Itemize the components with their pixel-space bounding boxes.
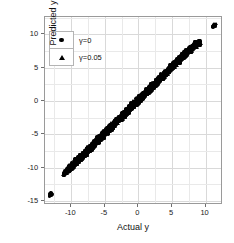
x-tick [137,204,138,207]
y-tick-label: 10 [0,29,38,38]
gridline-v-major [206,17,207,203]
gridline-v-minor [88,17,89,203]
y-tick-label: -10 [0,162,38,171]
gridline-h-major [45,201,221,202]
legend-label-gamma-005: γ=0.05 [79,53,102,62]
gridline-h-major [45,134,221,135]
x-tick-label: 10 [200,208,208,217]
plot-area: γ=0 γ=0.05 [44,16,222,204]
gridline-v-major [172,17,173,203]
data-point [50,191,54,194]
y-tick [41,33,44,34]
y-tick-label: -5 [0,129,38,138]
x-tick-label: 5 [169,208,173,217]
gridline-h-minor [45,84,221,85]
data-point [196,42,200,45]
y-tick [41,133,44,134]
gridline-v-major [105,17,106,203]
gridline-h-minor [45,118,221,119]
x-tick [205,204,206,207]
scatter-plot-figure: γ=0 γ=0.05 -10-505101050-5-10-15 Actual … [0,0,234,243]
y-tick-label: 0 [0,96,38,105]
x-tick-label: -10 [65,208,76,217]
x-tick-label: 0 [135,208,139,217]
y-tick [41,200,44,201]
x-tick [171,204,172,207]
y-tick [41,67,44,68]
y-tick [41,100,44,101]
gridline-h-minor [45,184,221,185]
y-tick [41,167,44,168]
data-point [213,23,217,26]
y-axis-title: Predicted y [46,0,60,117]
x-tick-label: -5 [101,208,107,217]
gridline-h-minor [45,151,221,152]
y-tick-label: -15 [0,196,38,205]
gridline-v-minor [155,17,156,203]
y-tick-label: 5 [0,62,38,71]
x-axis-title: Actual y [44,222,222,232]
gridline-h-minor [45,18,221,19]
legend-label-gamma-0: γ=0 [79,36,91,45]
gridline-v-major [138,17,139,203]
gridline-h-major [45,68,221,69]
x-tick [70,204,71,207]
x-tick [104,204,105,207]
